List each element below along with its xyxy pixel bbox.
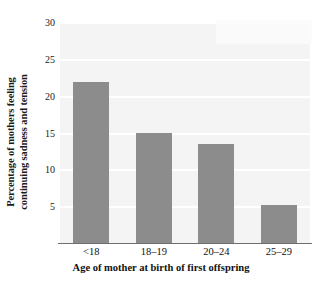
x-tick-label-20-24: 20–24	[185, 246, 248, 262]
bar-chart: Percentage of mothers feeling continuing…	[0, 0, 322, 284]
x-axis-line	[58, 243, 312, 244]
bar-25-29[interactable]	[261, 205, 297, 243]
y-tick-label-20: 20	[4, 90, 60, 101]
bar-under-18[interactable]	[73, 82, 109, 243]
x-tick-label-under-18: <18	[60, 246, 123, 262]
y-tick-label-5: 5	[4, 201, 60, 212]
bar-slot-0	[60, 22, 123, 243]
bar-20-24[interactable]	[198, 144, 234, 243]
y-tick-label-15: 15	[4, 127, 60, 138]
y-tick-label-25: 25	[4, 53, 60, 64]
x-tick-label-18-19: 18–19	[123, 246, 186, 262]
y-tick-label-30: 30	[4, 17, 60, 28]
bar-18-19[interactable]	[136, 133, 172, 244]
bars-layer	[60, 22, 310, 243]
y-tick-label-10: 10	[4, 164, 60, 175]
x-tick-label-25-29: 25–29	[248, 246, 311, 262]
x-axis-title: Age of mother at birth of first offsprin…	[0, 262, 322, 273]
bar-slot-2	[185, 22, 248, 243]
plot-area	[60, 22, 310, 243]
bar-slot-1	[123, 22, 186, 243]
y-axis-tick-labels: 30 25 20 15 10 5	[0, 0, 60, 284]
x-axis-tick-labels: <18 18–19 20–24 25–29	[60, 246, 310, 262]
bar-slot-3	[248, 22, 311, 243]
